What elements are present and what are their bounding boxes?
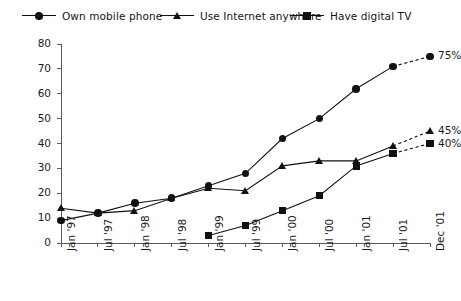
series-projection-triangle bbox=[393, 131, 430, 146]
y-axis-tick-label: 0 bbox=[23, 236, 51, 248]
y-axis-tick-label: 40 bbox=[23, 137, 51, 149]
x-axis-tick-label: Jan '98 bbox=[139, 215, 151, 251]
y-axis-tick-label: 50 bbox=[23, 112, 51, 124]
x-axis-tick-label: Jan '97 bbox=[65, 215, 77, 251]
x-axis-tick-label: Jan '00 bbox=[286, 215, 298, 251]
data-point-triangle bbox=[278, 162, 286, 169]
x-axis-tick-label: Jan '01 bbox=[360, 215, 372, 251]
data-point-triangle bbox=[167, 194, 175, 201]
x-axis-tick-label: Jul '00 bbox=[323, 219, 335, 251]
data-point-triangle bbox=[389, 142, 397, 149]
data-point-circle bbox=[389, 63, 397, 71]
data-point-square bbox=[205, 232, 212, 239]
data-point-square bbox=[353, 162, 360, 169]
data-point-square bbox=[279, 207, 286, 214]
data-point-square bbox=[316, 192, 323, 199]
y-axis-tick-label: 60 bbox=[23, 87, 51, 99]
data-point-triangle bbox=[130, 207, 138, 214]
data-point-circle bbox=[426, 53, 434, 61]
x-axis-tick-label: Jan '99 bbox=[213, 215, 225, 251]
endpoint-value-label: 75% bbox=[438, 49, 461, 61]
y-axis-tick-label: 20 bbox=[23, 186, 51, 198]
y-axis-tick-label: 70 bbox=[23, 62, 51, 74]
series-projection-circle bbox=[393, 56, 430, 66]
data-point-triangle bbox=[426, 127, 434, 134]
data-point-triangle bbox=[57, 204, 65, 211]
data-point-square bbox=[389, 150, 396, 157]
endpoint-value-label: 40% bbox=[438, 137, 461, 149]
x-axis-tick-label: Jul '01 bbox=[397, 219, 409, 251]
endpoint-value-label: 45% bbox=[438, 124, 461, 136]
data-point-square bbox=[426, 140, 433, 147]
x-axis-tick-label: Jul '97 bbox=[102, 219, 114, 251]
y-axis-tick-label: 10 bbox=[23, 211, 51, 223]
data-point-circle bbox=[57, 217, 65, 225]
data-point-triangle bbox=[94, 209, 102, 216]
data-point-square bbox=[242, 222, 249, 229]
series-line-circle bbox=[61, 66, 393, 220]
data-point-triangle bbox=[315, 157, 323, 164]
data-point-triangle bbox=[204, 184, 212, 191]
y-axis-tick-label: 80 bbox=[23, 37, 51, 49]
y-axis-tick-label: 30 bbox=[23, 161, 51, 173]
x-axis-tick-label: Jul '98 bbox=[176, 219, 188, 251]
series-projection-square bbox=[393, 144, 430, 154]
x-axis-tick-label: Jul '99 bbox=[250, 219, 262, 251]
data-point-triangle bbox=[241, 187, 249, 194]
x-axis-tick-label: Dec '01 bbox=[434, 211, 446, 251]
data-point-circle bbox=[352, 85, 360, 93]
